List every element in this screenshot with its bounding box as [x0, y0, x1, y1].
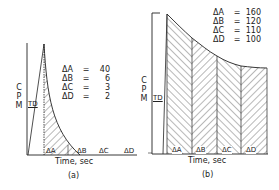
value-num: 110 — [243, 26, 261, 35]
value-key: ΔA — [62, 65, 80, 74]
panel-a-caption: (a) — [68, 171, 79, 180]
value-eq: = — [80, 74, 92, 83]
y-label-char: C — [140, 76, 148, 85]
panel-b-values: ΔA=160 ΔB=120 ΔC=110 ΔD=100 — [213, 8, 261, 44]
panel-a-segment-a: ΔA — [46, 147, 56, 155]
panel-b-td-label: TD — [153, 94, 163, 102]
value-num: 2 — [92, 92, 110, 101]
value-key: ΔD — [62, 92, 80, 101]
value-num: 100 — [243, 35, 261, 44]
panel-b-segment-d: ΔD — [246, 146, 256, 154]
value-eq: = — [80, 65, 92, 74]
y-label-char: M — [15, 101, 23, 110]
value-eq: = — [231, 8, 243, 17]
panel-b-segment-c: ΔC — [222, 146, 232, 154]
panel-b-y-axis-label: C P M — [140, 76, 148, 103]
value-eq: = — [80, 92, 92, 101]
value-key: ΔA — [213, 8, 231, 17]
value-num: 3 — [92, 83, 110, 92]
panel-b-segment-a: ΔA — [172, 146, 182, 154]
value-num: 160 — [243, 8, 261, 17]
value-row: ΔB=6 — [62, 74, 110, 83]
value-row: ΔC=3 — [62, 83, 110, 92]
value-row: ΔD=100 — [213, 35, 261, 44]
value-key: ΔB — [213, 17, 231, 26]
value-eq: = — [80, 83, 92, 92]
panel-b-x-axis-label: Time, sec — [188, 156, 226, 165]
panel-a-y-axis-label: C P M — [15, 83, 23, 110]
value-key: ΔC — [213, 26, 231, 35]
value-key: ΔB — [62, 74, 80, 83]
value-row: ΔB=120 — [213, 17, 261, 26]
value-row: ΔA=40 — [62, 65, 110, 74]
value-key: ΔD — [213, 35, 231, 44]
y-label-char: P — [15, 92, 23, 101]
y-label-char: M — [140, 94, 148, 103]
panel-a-td-label: TD — [28, 100, 38, 108]
panel-b-segment-b: ΔB — [196, 146, 206, 154]
value-row: ΔC=110 — [213, 26, 261, 35]
panel-b-caption: (b) — [202, 170, 213, 179]
value-eq: = — [231, 26, 243, 35]
panel-a-segment-d: ΔD — [124, 147, 134, 155]
panel-a-segment-c: ΔC — [99, 147, 109, 155]
value-row: ΔA=160 — [213, 8, 261, 17]
value-row: ΔD=2 — [62, 92, 110, 101]
panel-a-values: ΔA=40 ΔB=6 ΔC=3 ΔD=2 — [62, 65, 110, 101]
panel-a-segment-b: ΔB — [77, 147, 87, 155]
value-eq: = — [231, 35, 243, 44]
panel-a-x-axis-label: Time, sec — [55, 157, 93, 166]
value-num: 120 — [243, 17, 261, 26]
value-key: ΔC — [62, 83, 80, 92]
value-num: 6 — [92, 74, 110, 83]
value-num: 40 — [92, 65, 110, 74]
y-label-char: P — [140, 85, 148, 94]
y-label-char: C — [15, 83, 23, 92]
value-eq: = — [231, 17, 243, 26]
